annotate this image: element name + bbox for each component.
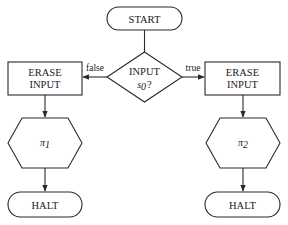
start-node: START (107, 7, 182, 30)
halt-left-node: HALT (8, 192, 82, 217)
true-label: true (186, 63, 201, 73)
flowchart-diagram: START INPUT s0? false true ERASE INPUT E… (0, 0, 288, 225)
halt-left-label: HALT (31, 200, 59, 211)
erase-right-line2: INPUT (227, 79, 259, 90)
halt-right-label: HALT (229, 200, 257, 211)
erase-input-left-node: ERASE INPUT (8, 62, 82, 95)
false-label: false (86, 63, 104, 73)
decision-label-line1: INPUT (129, 66, 161, 77)
erase-right-line1: ERASE (226, 67, 259, 78)
halt-right-node: HALT (205, 192, 280, 217)
decision-node: INPUT s0? (107, 52, 182, 102)
erase-left-line1: ERASE (28, 67, 61, 78)
erase-left-line2: INPUT (30, 79, 62, 90)
start-label: START (129, 14, 161, 25)
program-pi1-node: π1 (8, 118, 82, 168)
erase-input-right-node: ERASE INPUT (205, 62, 280, 95)
program-pi2-node: π2 (206, 118, 280, 168)
